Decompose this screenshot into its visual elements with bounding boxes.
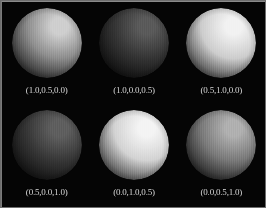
shaded-sphere	[186, 8, 256, 78]
sphere-container	[91, 105, 177, 185]
sphere-caption: (0.5,0.0,1.0)	[26, 187, 68, 198]
sphere-grid: (1.0,0.5,0.0) (1.0,0.0,0.5) (0.5,1.0	[3, 3, 265, 207]
shaded-sphere	[99, 110, 169, 180]
sphere-panel: (0.0,0.5,1.0)	[178, 105, 265, 207]
sphere-panel: (1.0,0.0,0.5)	[90, 3, 177, 105]
shaded-sphere	[12, 8, 82, 78]
sphere-container	[91, 3, 177, 83]
sphere-panel: (0.5,0.0,1.0)	[3, 105, 90, 207]
sphere-panel: (0.0,1.0,0.5)	[90, 105, 177, 207]
shaded-sphere	[12, 110, 82, 180]
sphere-scanline-texture	[186, 110, 256, 180]
sphere-render-figure: (1.0,0.5,0.0) (1.0,0.0,0.5) (0.5,1.0	[0, 0, 266, 208]
sphere-scanline-texture	[99, 110, 169, 180]
sphere-caption: (0.5,1.0,0.0)	[201, 85, 243, 96]
sphere-scanline-texture	[12, 8, 82, 78]
shaded-sphere	[186, 110, 256, 180]
sphere-scanline-texture	[12, 110, 82, 180]
sphere-container	[4, 105, 90, 185]
sphere-panel: (1.0,0.5,0.0)	[3, 3, 90, 105]
sphere-scanline-texture	[99, 8, 169, 78]
sphere-caption: (0.0,1.0,0.5)	[113, 187, 155, 198]
sphere-container	[178, 105, 264, 185]
sphere-panel: (0.5,1.0,0.0)	[178, 3, 265, 105]
sphere-container	[178, 3, 264, 83]
sphere-caption: (0.0,0.5,1.0)	[201, 187, 243, 198]
sphere-container	[4, 3, 90, 83]
sphere-caption: (1.0,0.0,0.5)	[113, 85, 155, 96]
sphere-scanline-texture	[186, 8, 256, 78]
sphere-caption: (1.0,0.5,0.0)	[26, 85, 68, 96]
shaded-sphere	[99, 8, 169, 78]
